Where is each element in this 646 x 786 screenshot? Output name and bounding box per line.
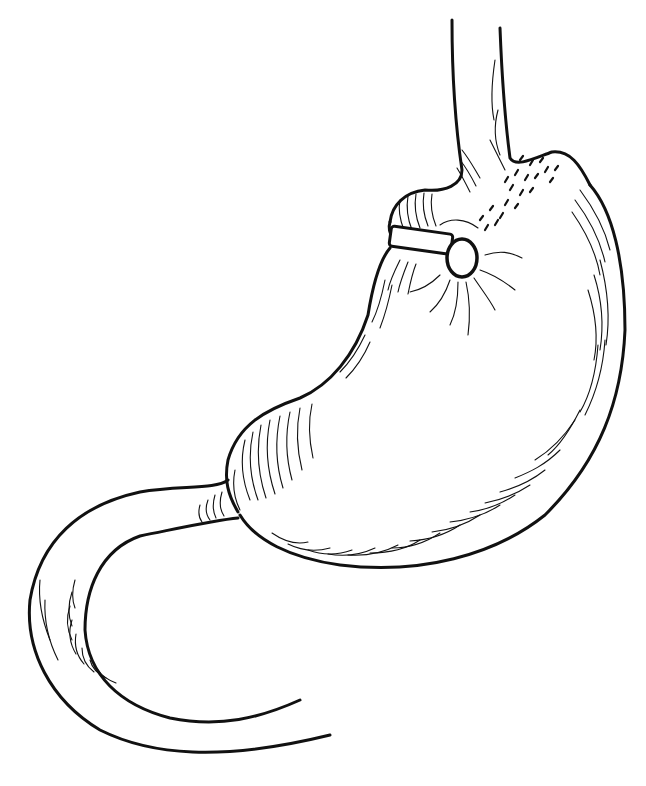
fundus-stipple <box>480 156 558 230</box>
band-strip <box>389 226 453 254</box>
esophagus-hatching <box>457 60 505 192</box>
duodenum-inner-wall <box>85 518 300 722</box>
esophagus <box>390 20 590 222</box>
esophagus-left-wall <box>390 20 462 222</box>
antrum-hatching <box>234 404 313 510</box>
lesser-curvature-hatching <box>340 280 392 378</box>
duodenum-outer-wall <box>29 480 330 752</box>
band-ring <box>447 239 477 277</box>
stomach-illustration <box>0 0 646 786</box>
esophagus-right-wall <box>500 28 590 185</box>
gastric-band <box>389 226 477 277</box>
duodenum-hatching <box>39 492 224 683</box>
duodenum <box>29 480 330 752</box>
